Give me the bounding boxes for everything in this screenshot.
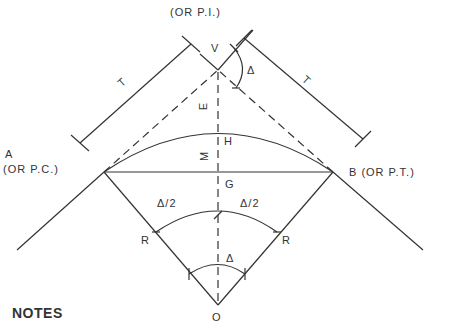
half-delta-left-label: Δ/2 <box>157 197 177 209</box>
b-label: B (OR P.T.) <box>349 166 415 178</box>
t-dimension-left <box>80 44 191 143</box>
r-arc <box>156 211 277 232</box>
delta-o-label: Δ <box>226 252 234 264</box>
e-label: E <box>197 102 209 110</box>
right-tangent-extension <box>200 54 218 70</box>
notes-heading: NOTES <box>12 305 63 321</box>
a-label: A <box>5 148 13 160</box>
o-label: O <box>212 311 222 323</box>
t-dimension-right <box>244 38 363 139</box>
delta-arc-v <box>234 48 243 88</box>
radius-right <box>218 172 333 305</box>
right-tangent-line <box>333 172 423 250</box>
h-label: H <box>224 135 233 147</box>
right-tangent-dashed <box>218 70 333 172</box>
half-delta-right-label: Δ/2 <box>240 197 260 209</box>
delta-v-label: Δ <box>247 64 255 76</box>
r-left-label: R <box>141 234 150 246</box>
r-right-label: R <box>282 234 291 246</box>
left-tangent-line <box>17 172 104 250</box>
delta-arc-o <box>189 265 245 275</box>
v-label: V <box>211 42 219 54</box>
pc-label: (OR P.C.) <box>3 163 59 175</box>
radius-left <box>104 172 218 305</box>
pi-label: (OR P.I.) <box>170 6 221 18</box>
g-label: G <box>225 178 235 190</box>
m-label: M <box>198 151 210 161</box>
